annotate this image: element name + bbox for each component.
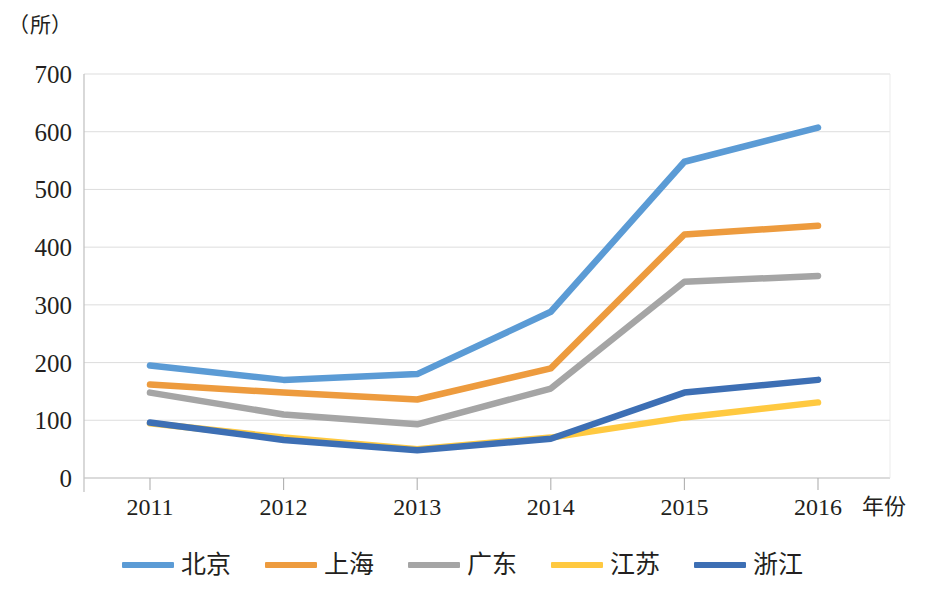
x-axis-tick-label: 2012: [260, 495, 308, 519]
legend-item[interactable]: 北京: [122, 552, 231, 577]
legend-swatch-icon: [265, 562, 317, 568]
line-chart: （所） 0100200300400500600700 2011201220132…: [0, 0, 925, 590]
legend-label: 广东: [467, 552, 517, 577]
legend-label: 上海: [324, 552, 374, 577]
legend-label: 江苏: [610, 552, 660, 577]
legend-swatch-icon: [122, 562, 174, 568]
legend-item[interactable]: 广东: [408, 552, 517, 577]
x-axis-tick-label: 2013: [393, 495, 441, 519]
legend-swatch-icon: [408, 562, 460, 568]
legend-item[interactable]: 上海: [265, 552, 374, 577]
legend-label: 浙江: [753, 552, 803, 577]
series-lines: [150, 128, 818, 451]
series-line-北京: [150, 128, 818, 380]
x-axis-tick-label: 2011: [126, 495, 173, 519]
x-axis-tick-label: 2016: [794, 495, 842, 519]
x-axis-tick-label: 2014: [527, 495, 575, 519]
legend-item[interactable]: 浙江: [694, 552, 803, 577]
legend-item[interactable]: 江苏: [551, 552, 660, 577]
x-axis-ticks: [150, 478, 818, 490]
legend-swatch-icon: [551, 562, 603, 568]
legend-swatch-icon: [694, 562, 746, 568]
legend-label: 北京: [181, 552, 231, 577]
x-axis-title: 年份: [862, 496, 906, 518]
chart-legend: 北京上海广东江苏浙江: [0, 552, 925, 577]
series-line-广东: [150, 276, 818, 424]
x-axis-tick-label: 2015: [660, 495, 708, 519]
